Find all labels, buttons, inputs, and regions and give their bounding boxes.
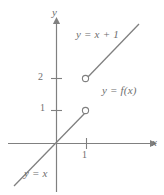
function-graph-figure: y x 2 1 1 y = x + 1 y = f(x) y = x (0, 0, 164, 195)
x-tick-label-1: 1 (82, 150, 87, 160)
lower-branch-equation-label: y = x (24, 168, 48, 179)
y-axis-label: y (52, 7, 57, 18)
function-name-label: y = f(x) (102, 85, 137, 96)
y-tick-label-1: 1 (40, 103, 45, 113)
y-tick-label-2: 2 (38, 72, 43, 82)
x-axis-label: x (152, 137, 157, 148)
upper-branch-equation-label: y = x + 1 (76, 29, 119, 40)
y-axis-arrowhead (53, 17, 60, 24)
open-point-1-2 (82, 75, 88, 81)
open-point-1-1 (82, 107, 88, 113)
